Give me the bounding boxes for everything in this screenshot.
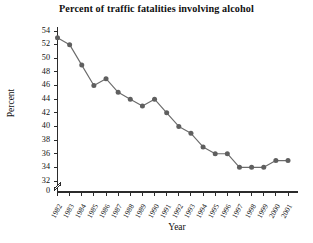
data-point-marker (67, 42, 72, 47)
data-point-marker (286, 158, 291, 163)
data-point-marker (188, 131, 193, 136)
data-point-marker (116, 90, 121, 95)
axes (54, 27, 298, 196)
chart-figure: Percent of traffic fatalities involving … (0, 0, 313, 243)
data-point-marker (55, 35, 60, 40)
data-point-marker (237, 165, 242, 170)
data-point-marker (79, 63, 84, 68)
data-point-marker (213, 151, 218, 156)
data-point-marker (91, 83, 96, 88)
data-point-marker (152, 97, 157, 102)
data-point-marker (201, 144, 206, 149)
data-point-marker (261, 165, 266, 170)
data-point-marker (176, 124, 181, 129)
data-series (55, 35, 291, 170)
data-point-marker (273, 158, 278, 163)
plot-area (0, 0, 313, 243)
data-point-marker (164, 110, 169, 115)
series-line (58, 38, 289, 168)
data-point-marker (140, 104, 145, 109)
data-point-marker (128, 97, 133, 102)
data-point-marker (104, 76, 109, 81)
data-point-marker (225, 151, 230, 156)
data-point-marker (249, 165, 254, 170)
